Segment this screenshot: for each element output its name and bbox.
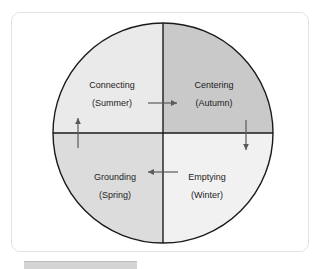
quadrant-season-upper-right: (Autumn) xyxy=(195,98,232,108)
quadrant-title-lower-right: Emptying xyxy=(188,172,226,182)
quadrant-fill-lower-right xyxy=(163,133,273,243)
quadrant-fill-lower-left xyxy=(53,133,163,243)
quadrant-season-upper-left: (Summer) xyxy=(92,98,132,108)
quadrant-season-lower-right: (Winter) xyxy=(191,190,223,200)
quadrant-title-upper-left: Connecting xyxy=(89,80,135,90)
quadrant-title-lower-left: Grounding xyxy=(94,172,136,182)
quadrant-fill-upper-right xyxy=(163,23,273,133)
cropped-caption-strip xyxy=(24,261,137,269)
quadrant-fill-upper-left xyxy=(53,23,163,133)
quadrant-season-lower-left: (Spring) xyxy=(99,190,131,200)
quadrant-title-upper-right: Centering xyxy=(194,80,233,90)
